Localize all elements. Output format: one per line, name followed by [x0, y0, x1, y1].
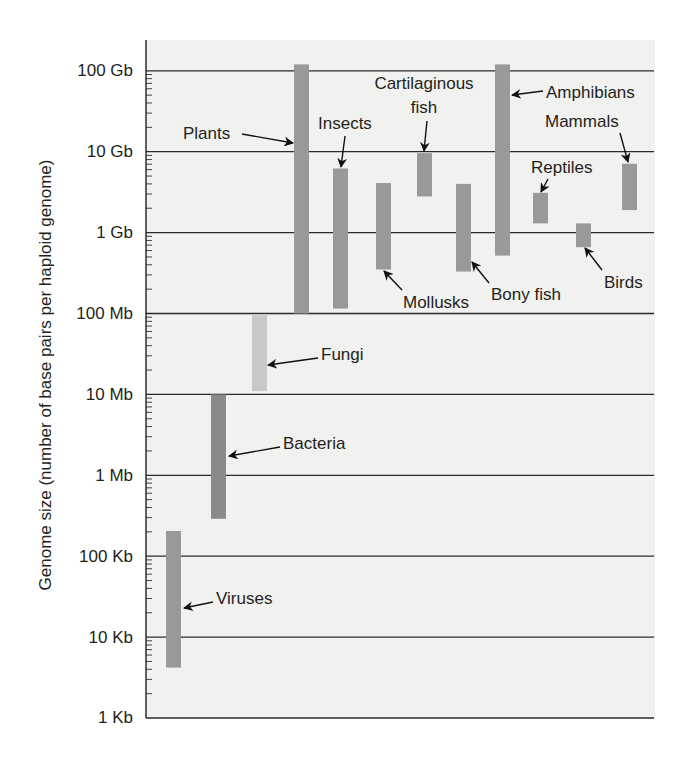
bar-label-amphibians: Amphibians — [546, 83, 635, 102]
bar-label-mammals: Mammals — [545, 112, 619, 131]
bar-label-birds: Birds — [604, 273, 643, 292]
bar-label-mollusks: Mollusks — [403, 293, 469, 312]
bar-label-viruses: Viruses — [216, 589, 272, 608]
y-tick-label: 100 Gb — [77, 61, 133, 80]
bar-label-plants: Plants — [183, 124, 230, 143]
y-tick-label: 10 Mb — [86, 385, 133, 404]
y-tick-label: 10 Kb — [89, 628, 133, 647]
y-tick-label: 1 Gb — [96, 223, 133, 242]
y-tick-label: 1 Kb — [98, 708, 133, 727]
range-bar-birds — [576, 223, 591, 247]
genome-size-chart: 1 Kb10 Kb100 Kb1 Mb10 Mb100 Mb1 Gb10 Gb1… — [0, 0, 688, 763]
bar-label-fungi: Fungi — [321, 345, 364, 364]
range-bar-bacteria — [211, 394, 226, 518]
range-bar-amphibians — [495, 64, 510, 255]
bar-label-bony-fish: Bony fish — [491, 285, 561, 304]
y-tick-label: 100 Mb — [76, 304, 133, 323]
bar-label-insects: Insects — [318, 114, 372, 133]
range-bar-bony-fish — [456, 184, 471, 272]
y-tick-label: 100 Kb — [79, 547, 133, 566]
range-bar-reptiles — [533, 193, 548, 224]
y-tick-labels: 1 Kb10 Kb100 Kb1 Mb10 Mb100 Mb1 Gb10 Gb1… — [76, 61, 133, 727]
y-tick-label: 10 Gb — [87, 142, 133, 161]
range-bar-viruses — [166, 531, 181, 668]
range-bar-mollusks — [376, 183, 391, 269]
range-bar-insects — [333, 168, 348, 308]
range-bar-cartilaginous-fish — [417, 153, 432, 196]
range-bar-mammals — [622, 164, 637, 210]
range-bar-plants — [294, 64, 309, 313]
bar-label-reptiles: Reptiles — [531, 158, 592, 177]
range-bar-fungi — [252, 315, 267, 391]
bar-label-bacteria: Bacteria — [283, 434, 346, 453]
y-axis-label: Genome size (number of base pairs per ha… — [36, 160, 55, 591]
y-tick-label: 1 Mb — [95, 466, 133, 485]
